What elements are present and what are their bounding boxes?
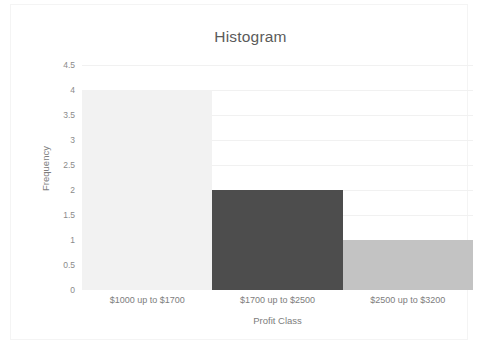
y-axis-tick-label: 0.5 <box>47 260 75 270</box>
x-axis-tick-label: $1700 up to $2500 <box>212 295 342 305</box>
y-axis-tick-label: 3 <box>47 135 75 145</box>
y-axis-tick-label: 2 <box>47 185 75 195</box>
bar[interactable] <box>343 240 473 290</box>
y-axis-tick-label: 1 <box>47 235 75 245</box>
x-axis-tick-label: $1000 up to $1700 <box>82 295 212 305</box>
bar-series <box>82 65 473 290</box>
x-axis-tick-labels: $1000 up to $1700$1700 up to $2500$2500 … <box>82 295 473 305</box>
y-axis-tick-label: 3.5 <box>47 110 75 120</box>
y-axis-tick-label: 4 <box>47 85 75 95</box>
y-axis-tick-label: 2.5 <box>47 160 75 170</box>
y-axis-tick-label: 4.5 <box>47 60 75 70</box>
x-axis-title: Profit Class <box>82 315 473 326</box>
y-axis-tick-label: 1.5 <box>47 210 75 220</box>
chart-title: Histogram <box>11 28 479 46</box>
bar[interactable] <box>212 190 342 290</box>
plot-area <box>82 65 473 290</box>
bar[interactable] <box>82 90 212 290</box>
y-axis-tick-labels: 4.543.532.521.510.50 <box>47 65 75 290</box>
y-axis-tick-label: 0 <box>47 285 75 295</box>
chart-frame: Histogram Frequency 4.543.532.521.510.50… <box>10 4 468 340</box>
x-axis-tick-label: $2500 up to $3200 <box>343 295 473 305</box>
